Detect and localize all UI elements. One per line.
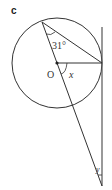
- circle-geometry-diagram: c 31° O x y: [0, 0, 112, 190]
- chord-to-tangent-point: [42, 22, 102, 63]
- part-label: c: [11, 5, 17, 16]
- angle-label-x: x: [68, 69, 74, 80]
- angle-label-y: y: [95, 165, 100, 174]
- angle-arc-31: [46, 32, 55, 35]
- center-point: [55, 61, 58, 64]
- diameter-secant-line: [42, 22, 102, 186]
- angle-arc-x: [61, 63, 67, 74]
- center-label: O: [47, 69, 54, 80]
- angle-label-31: 31°: [52, 40, 66, 51]
